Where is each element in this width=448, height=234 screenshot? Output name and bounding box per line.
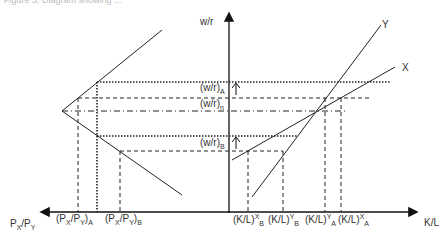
curve-label-x: X [402, 63, 409, 73]
vertical-axis-label: w/r [200, 17, 213, 27]
label-price-ratio-b: (PX/PY)B [105, 214, 142, 226]
label-wr-n: (w/r)n [200, 99, 224, 111]
label-kl-x-b: (K/L)XB [233, 213, 264, 227]
horizontal-axis-label-price: PX/PY [10, 219, 35, 231]
price-curve [62, 30, 182, 195]
horizontal-axis-label-kl: K/L [424, 218, 439, 228]
label-wr-a: (w/r)A [200, 83, 225, 95]
diagram-canvas [0, 0, 448, 234]
label-kl-y-b: (K/L)YB [268, 213, 299, 227]
label-kl-x-a: (K/L)XA [338, 213, 369, 227]
capital-labor-guides [248, 98, 341, 212]
label-kl-y-a: (K/L)YA [305, 213, 336, 227]
label-wr-b: (w/r)B [200, 138, 225, 150]
curve-label-y: Y [382, 20, 389, 30]
line-x [232, 67, 395, 160]
label-price-ratio-a: (PX/PY)A [56, 214, 93, 226]
